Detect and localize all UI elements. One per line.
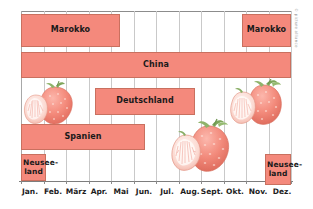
strawberry-photo-upper-right xyxy=(228,79,284,127)
x-axis-tick-3 xyxy=(89,181,90,184)
bar-deutschland: Deutschland xyxy=(95,88,195,115)
x-axis-tick-12 xyxy=(291,181,292,184)
x-axis-tick-4 xyxy=(111,181,112,184)
x-axis-tick-1 xyxy=(44,181,45,184)
x-axis-tick-5 xyxy=(134,181,135,184)
month-label-8: Sept. xyxy=(201,187,223,196)
bar-marokko-early-label: Marokko xyxy=(22,26,119,34)
month-label-7: Aug. xyxy=(180,187,199,196)
strawberry-season-chart: MarokkoChinaDeutschlandSpanienNeusee-lan… xyxy=(0,0,313,209)
x-axis-tick-9 xyxy=(224,181,225,184)
bar-neuseeland-early-label: Neusee-land xyxy=(23,159,44,175)
bar-neuseeland-late-label: Neusee-land xyxy=(267,161,289,177)
month-label-4: Mai xyxy=(113,187,128,196)
gridline-8 xyxy=(201,11,202,181)
x-axis-tick-10 xyxy=(246,181,247,184)
month-label-10: Nov. xyxy=(249,187,268,196)
bar-neuseeland-early: Neusee-land xyxy=(21,154,46,181)
bar-china-label: China xyxy=(22,61,290,69)
month-label-5: Jun. xyxy=(136,187,152,196)
month-label-11: Dez. xyxy=(273,187,292,196)
month-label-3: Apr. xyxy=(91,187,108,196)
x-axis-tick-2 xyxy=(66,181,67,184)
strawberry-photo-left xyxy=(22,80,76,126)
month-label-0: Jan. xyxy=(22,187,38,196)
bar-marokko-late-label: Marokko xyxy=(243,26,290,34)
x-axis-tick-6 xyxy=(156,181,157,184)
bar-spanien-label: Spanien xyxy=(22,133,144,141)
bar-neuseeland-late: Neusee-land xyxy=(265,154,291,185)
month-label-9: Okt. xyxy=(226,187,244,196)
bar-spanien: Spanien xyxy=(21,124,145,150)
gridline-12 xyxy=(291,11,292,181)
x-axis-tick-0 xyxy=(21,181,22,184)
bar-deutschland-label: Deutschland xyxy=(96,97,194,105)
x-axis-tick-7 xyxy=(179,181,180,184)
bar-marokko-early: Marokko xyxy=(21,14,120,47)
month-label-6: Jul. xyxy=(160,187,174,196)
image-credit-text: © picture alliance xyxy=(294,8,299,42)
x-axis-tick-8 xyxy=(201,181,202,184)
month-label-1: Feb. xyxy=(44,187,62,196)
bar-marokko-late: Marokko xyxy=(242,14,291,47)
bar-china: China xyxy=(21,52,291,78)
gridline-9 xyxy=(224,11,225,181)
month-label-2: März xyxy=(66,187,87,196)
